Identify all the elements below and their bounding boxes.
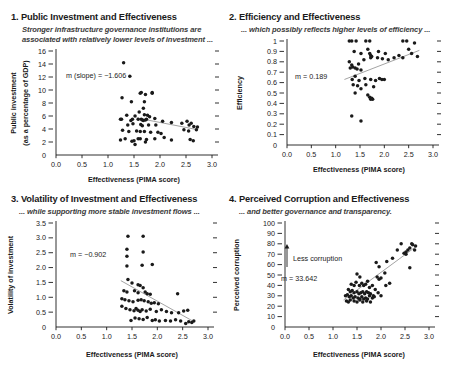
y-tick-label: 0.1 bbox=[267, 130, 277, 139]
x-tick-label: 1.5 bbox=[355, 150, 365, 159]
y-tick-label: 0 bbox=[273, 141, 277, 150]
y-axis-label: Volatility of investment bbox=[6, 235, 15, 314]
slope-annotation: m = 33.642 bbox=[281, 274, 317, 283]
x-tick-label: 0.0 bbox=[282, 150, 292, 159]
x-tick-label: 1.0 bbox=[102, 332, 112, 341]
panel-perceived-corruption: 4. Perceived Corruption and Effectivenes… bbox=[225, 185, 449, 365]
x-axis-label: Effectiveness (PIMA score) bbox=[88, 175, 181, 184]
panel-volatility: 3. Volatility of Investment and Effectiv… bbox=[0, 185, 225, 365]
panel-public-investment: 1. Public Investment and Effectiveness S… bbox=[0, 0, 225, 185]
y-tick-label: 2.0 bbox=[36, 263, 46, 272]
x-tick-label: 1.5 bbox=[352, 332, 362, 341]
x-tick-label: 2.0 bbox=[152, 332, 162, 341]
panel-4-plot: 01020304050607080901000.00.51.01.52.02.5… bbox=[225, 217, 449, 360]
y-tick-label: 0.3 bbox=[267, 109, 277, 118]
y-tick-label: 70 bbox=[267, 250, 275, 259]
y-tick-label: 0.5 bbox=[36, 308, 46, 317]
x-tick-label: 2.5 bbox=[181, 160, 191, 169]
y-tick-label: 1 bbox=[273, 37, 277, 46]
panel-1-subtitle-line-2: associated with relatively lower levels … bbox=[22, 35, 213, 45]
y-tick-label: 16 bbox=[38, 47, 46, 56]
slope-annotation: m = −0.902 bbox=[70, 250, 106, 259]
y-tick-label: 0.9 bbox=[267, 47, 277, 56]
y-tick-label: 0 bbox=[271, 323, 275, 332]
x-tick-label: 0.0 bbox=[280, 332, 290, 341]
y-tick-label: 20 bbox=[267, 302, 275, 311]
panel-3-plot: 00.51.01.52.02.53.03.50.00.51.01.52.02.5… bbox=[0, 217, 225, 360]
y-tick-label: 0 bbox=[42, 323, 46, 332]
y-tick-label: 90 bbox=[267, 229, 275, 238]
y-tick-label: 0.4 bbox=[267, 99, 277, 108]
y-tick-label: 100 bbox=[263, 219, 275, 228]
arrow-annotation-label: Less corruption bbox=[293, 254, 342, 263]
slope-annotation: m = 0.189 bbox=[295, 72, 327, 81]
y-tick-label: 1.0 bbox=[36, 293, 46, 302]
x-tick-label: 1.5 bbox=[129, 160, 139, 169]
panel-3-title: 3. Volatility of Investment and Effectiv… bbox=[11, 194, 197, 205]
x-tick-label: 0.5 bbox=[77, 160, 87, 169]
y-axis-label: Perceived corruption bbox=[232, 239, 241, 311]
x-tick-label: 2.0 bbox=[155, 160, 165, 169]
x-tick-label: 1.0 bbox=[328, 332, 338, 341]
y-tick-label: 3.0 bbox=[36, 233, 46, 242]
panel-4-title: 4. Perceived Corruption and Effectivenes… bbox=[229, 194, 409, 205]
y-tick-label: 3.5 bbox=[36, 219, 46, 228]
y-tick-label: 14 bbox=[38, 60, 46, 69]
y-tick-label: 4 bbox=[42, 125, 46, 134]
scatter-points bbox=[119, 61, 199, 146]
x-tick-label: 1.0 bbox=[103, 160, 113, 169]
x-tick-label: 3.0 bbox=[203, 332, 213, 341]
panel-2-subtitle-line-1: ... which possibly reflects higher level… bbox=[241, 25, 430, 35]
x-axis-label: Effectiveness (PIMA score) bbox=[313, 350, 406, 359]
y-tick-label: 30 bbox=[267, 291, 275, 300]
y-tick-label: 0.5 bbox=[267, 89, 277, 98]
y-tick-label: 1.5 bbox=[36, 278, 46, 287]
x-tick-label: 2.5 bbox=[400, 332, 410, 341]
y-tick-label: 80 bbox=[267, 239, 275, 248]
x-tick-label: 0.5 bbox=[304, 332, 314, 341]
panel-1-plot: 02468101214160.00.51.01.52.02.53.0m (slo… bbox=[0, 45, 225, 185]
x-tick-label: 0.5 bbox=[76, 332, 86, 341]
slope-annotation: m (slope) = −1.606 bbox=[66, 71, 126, 80]
y-tick-label: 50 bbox=[267, 271, 275, 280]
x-tick-label: 0.0 bbox=[51, 332, 61, 341]
x-tick-label: 1.0 bbox=[331, 150, 341, 159]
x-tick-label: 3.0 bbox=[424, 332, 434, 341]
y-axis-label: Public investment bbox=[9, 72, 18, 134]
x-tick-label: 3.0 bbox=[207, 160, 217, 169]
panel-1-title: 1. Public Investment and Effectiveness bbox=[11, 12, 177, 23]
x-axis-label: Effectiveness (PIMA score) bbox=[86, 350, 179, 359]
y-tick-label: 0.8 bbox=[267, 57, 277, 66]
y-tick-label: 0.6 bbox=[267, 78, 277, 87]
x-tick-label: 2.5 bbox=[404, 150, 414, 159]
panel-2-plot: 00.10.20.30.40.50.60.70.80.910.00.51.01.… bbox=[225, 35, 449, 175]
y-axis-label: (as a percentage of GDP) bbox=[21, 60, 30, 146]
panel-1-subtitle-line-1: Stronger infrastructure governance insti… bbox=[22, 25, 213, 35]
y-tick-label: 12 bbox=[38, 73, 46, 82]
x-tick-label: 3.0 bbox=[428, 150, 438, 159]
y-tick-label: 10 bbox=[267, 312, 275, 321]
x-tick-label: 2.0 bbox=[376, 332, 386, 341]
y-tick-label: 8 bbox=[42, 99, 46, 108]
y-tick-label: 0.2 bbox=[267, 120, 277, 129]
y-tick-label: 0 bbox=[42, 151, 46, 160]
y-tick-label: 60 bbox=[267, 260, 275, 269]
x-tick-label: 1.5 bbox=[127, 332, 137, 341]
x-tick-label: 0.5 bbox=[306, 150, 316, 159]
x-axis-label: Effectiveness (PIMA score) bbox=[313, 165, 406, 174]
x-tick-label: 2.0 bbox=[379, 150, 389, 159]
panel-3-subtitle-line-1: ... while supporting more stable investm… bbox=[19, 207, 200, 217]
panel-2-title: 2. Efficiency and Effectiveness bbox=[229, 12, 360, 23]
panel-efficiency: 2. Efficiency and Effectiveness ... whic… bbox=[225, 0, 449, 185]
panel-4-subtitle-line-1: ... and better governance and transparen… bbox=[239, 207, 392, 217]
figure-container: 1. Public Investment and Effectiveness S… bbox=[0, 0, 449, 365]
y-axis-label: Efficiency bbox=[235, 76, 244, 110]
y-tick-label: 0.7 bbox=[267, 68, 277, 77]
y-tick-label: 2.5 bbox=[36, 248, 46, 257]
y-tick-label: 2 bbox=[42, 138, 46, 147]
x-tick-label: 2.5 bbox=[178, 332, 188, 341]
y-tick-label: 10 bbox=[38, 86, 46, 95]
x-tick-label: 0.0 bbox=[51, 160, 61, 169]
scatter-points bbox=[120, 235, 195, 326]
y-tick-label: 6 bbox=[42, 112, 46, 121]
